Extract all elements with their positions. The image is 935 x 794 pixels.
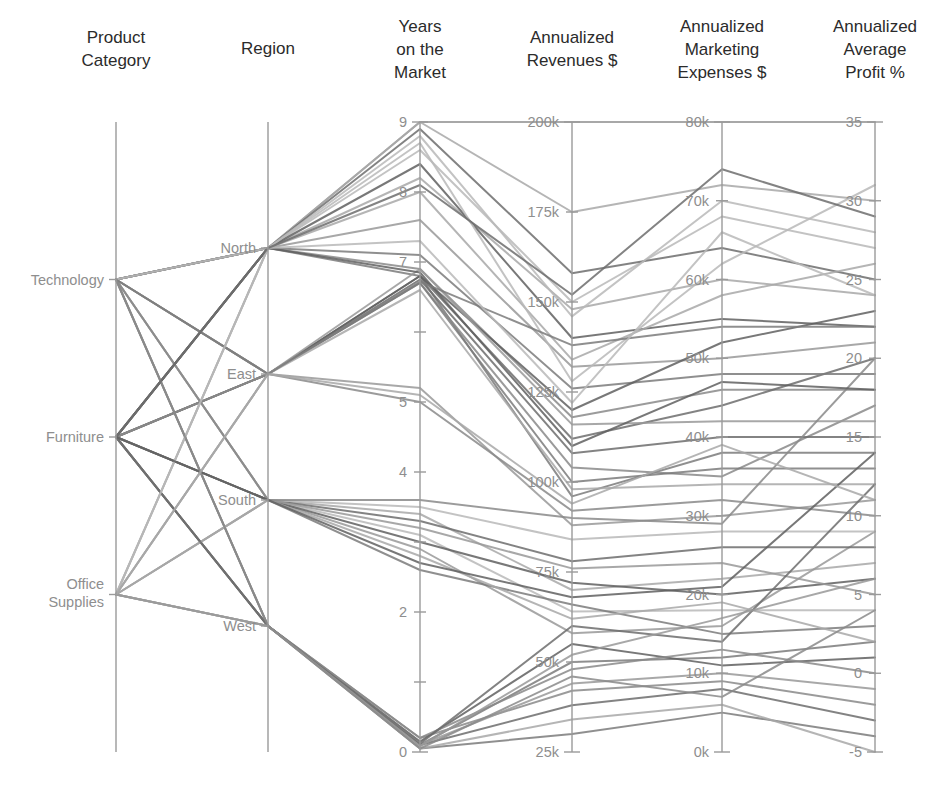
axis-title-line: Market [394,63,446,82]
tick-label: 25 [846,272,862,288]
tick-label: 0 [854,665,862,681]
tick-label: 100k [528,474,560,490]
tick-label: 10 [846,508,862,524]
tick-label: 25k [536,744,560,760]
data-line [116,269,875,595]
data-line [116,280,875,524]
axis-title-line: Revenues $ [527,51,618,70]
axis-title-annualized-revenues: AnnualizedRevenues $ [527,28,618,70]
tick-label: 4 [399,464,407,480]
tick-label: 80k [686,114,710,130]
data-line [116,437,875,634]
data-line [116,164,875,437]
category-label: West [223,618,256,634]
axis-product-category[interactable]: TechnologyFurnitureOfficeSupplies [31,122,116,752]
chart-canvas: TechnologyFurnitureOfficeSuppliesNorthEa… [0,0,935,794]
tick-label: 70k [686,193,710,209]
axis-title-annualized-marketing-expenses: AnnualizedMarketingExpenses $ [678,17,767,82]
tick-label: 75k [536,564,560,580]
axis-title-product-category: ProductCategory [82,28,151,70]
tick-label: 50k [536,654,560,670]
tick-label: 2 [399,604,407,620]
axis-years-on-market[interactable]: 0245789 [399,114,428,760]
category-label: Technology [31,272,105,288]
axis-title-line: Marketing [685,40,760,59]
axis-title-line: Product [87,28,146,47]
axis-title-line: on the [396,40,443,59]
tick-label: -5 [849,744,862,760]
data-lines-layer [116,122,875,752]
axis-title-line: Average [843,40,906,59]
axis-title-line: Annualized [680,17,764,36]
tick-label: 7 [399,254,407,270]
category-label: North [221,240,256,256]
tick-label: 35 [846,114,862,130]
axis-title-line: Category [82,51,151,70]
axis-title-annualized-average-profit: AnnualizedAverageProfit % [833,17,917,82]
tick-label: 30k [686,508,710,524]
tick-label: 125k [528,384,560,400]
tick-label: 10k [686,665,710,681]
tick-label: 60k [686,272,710,288]
tick-label: 30 [846,193,862,209]
tick-label: 15 [846,429,862,445]
tick-label: 200k [528,114,560,130]
axis-annualized-revenues[interactable]: 25k50k75k100k125k150k175k200k [528,114,580,760]
tick-label: 50k [686,350,710,366]
axis-title-line: Annualized [530,28,614,47]
axis-titles-layer: ProductCategoryRegionYearson theMarketAn… [82,17,918,82]
data-line [116,280,875,526]
category-label: Office [66,576,104,592]
parallel-coordinates-chart: TechnologyFurnitureOfficeSuppliesNorthEa… [0,0,935,794]
category-label: East [227,366,256,382]
axis-title-line: Expenses $ [678,63,767,82]
tick-label: 5 [399,394,407,410]
tick-label: 8 [399,184,407,200]
axis-title-years-on-market: Yearson theMarket [394,17,446,82]
tick-label: 40k [686,429,710,445]
category-label: Furniture [46,429,104,445]
axis-title-line: Region [241,39,295,58]
axis-title-line: Annualized [833,17,917,36]
tick-label: 0 [399,744,407,760]
tick-label: 0k [694,744,710,760]
tick-label: 20 [846,350,862,366]
tick-label: 175k [528,204,560,220]
category-label: Supplies [48,594,104,610]
axis-title-line: Years [399,17,442,36]
tick-label: 20k [686,587,710,603]
axis-title-region: Region [241,39,295,58]
category-label: South [218,492,256,508]
tick-label: 5 [854,587,862,603]
axis-title-line: Profit % [845,63,905,82]
tick-label: 9 [399,114,407,130]
tick-label: 150k [528,294,560,310]
